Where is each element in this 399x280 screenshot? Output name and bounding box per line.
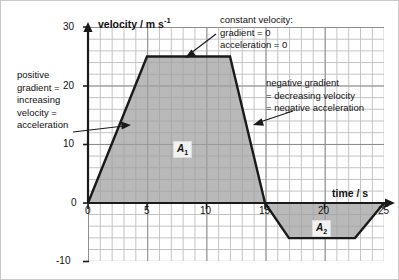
area-label-a2-subscript: 2	[323, 228, 327, 235]
annotation-negative-gradient-line-1: negative gradient	[266, 77, 364, 90]
annotation-constant-velocity-line-2: gradient = 0	[220, 27, 293, 40]
area-label-a1-subscript: 1	[184, 149, 188, 156]
annotation-positive-gradient: positive gradient = increasing velocity …	[17, 69, 68, 132]
x-tick-label-20: 20	[318, 205, 329, 216]
annotation-positive-gradient-line-2: gradient =	[17, 82, 68, 95]
y-tick-label-10: 10	[63, 138, 74, 149]
shaded-area-a1	[88, 57, 265, 204]
x-tick-label-5: 5	[144, 205, 150, 216]
annotation-positive-gradient-line-3: increasing	[17, 94, 68, 107]
annotation-constant-velocity: constant velocity: gradient = 0 accelera…	[220, 14, 293, 52]
annotation-negative-gradient: negative gradient = decreasing velocity …	[266, 77, 364, 115]
area-label-a1: A1	[173, 141, 192, 158]
x-tick-label-10: 10	[200, 205, 211, 216]
annotation-constant-velocity-line-1: constant velocity:	[220, 14, 293, 27]
graph-vector-layer	[1, 1, 399, 280]
velocity-time-graph-figure: 30 20 10 0 -10 0 5 10 15 20 25 velocity …	[0, 0, 399, 280]
y-axis-title-text: velocity / m s	[98, 18, 164, 30]
y-axis-title-exponent: -1	[164, 16, 171, 25]
annotation-negative-gradient-line-3: = negative acceleration	[266, 102, 364, 115]
annotation-positive-gradient-line-4: velocity =	[17, 107, 68, 120]
x-axis-title: time / s	[332, 187, 368, 199]
annotation-negative-gradient-line-2: = decreasing velocity	[266, 90, 364, 103]
y-tick-label-0: 0	[71, 197, 77, 208]
x-tick-label-25: 25	[378, 205, 389, 216]
constant-velocity-leader-arrow	[185, 34, 216, 58]
y-axis-title: velocity / m s-1	[98, 16, 171, 30]
y-tick-label-30: 30	[63, 21, 74, 32]
x-tick-label-0: 0	[85, 205, 91, 216]
x-tick-label-15: 15	[259, 205, 270, 216]
annotation-constant-velocity-line-3: acceleration = 0	[220, 39, 293, 52]
area-label-a2: A2	[312, 220, 331, 237]
annotation-positive-gradient-line-1: positive	[17, 69, 68, 82]
annotation-positive-gradient-line-5: acceleration	[17, 119, 68, 132]
y-tick-label-neg10: -10	[56, 255, 70, 266]
